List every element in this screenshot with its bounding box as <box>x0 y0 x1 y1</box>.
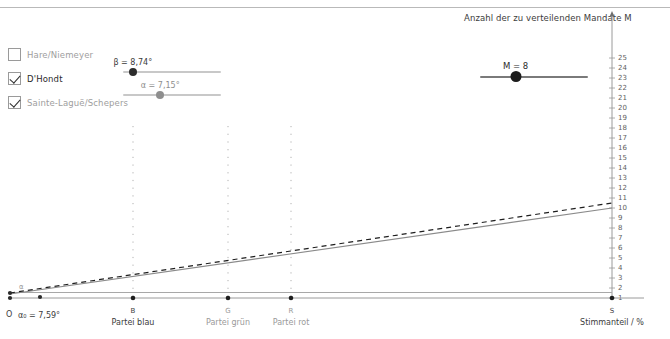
y-tick-label-24: 24 <box>618 64 627 72</box>
point-g[interactable] <box>226 296 231 301</box>
y-tick-label-23: 23 <box>618 74 627 82</box>
x-label-party-blue: Partei blau <box>112 318 155 327</box>
series-sainte-lague <box>10 208 612 294</box>
y-tick-label-2: 2 <box>618 284 622 292</box>
x-axis-labels: B Partei blau G Partei grün R Partei rot… <box>112 307 645 327</box>
y-tick-label-25: 25 <box>618 54 627 62</box>
x-label-short-r: R <box>289 307 294 315</box>
series-dhondt <box>10 203 612 293</box>
point-b[interactable] <box>131 296 136 301</box>
y-axis-arrow <box>610 11 615 17</box>
point-s[interactable] <box>610 296 615 301</box>
y-tick-label-17: 17 <box>618 134 627 142</box>
y-tick-label-7: 7 <box>618 234 622 242</box>
seat-allocation-plot: 1234567891011121314151617181920212223242… <box>0 0 670 339</box>
y-tick-label-15: 15 <box>618 154 627 162</box>
y-tick-label-8: 8 <box>618 224 622 232</box>
y-tick-label-5: 5 <box>618 254 622 262</box>
x-label-party-green: Partei grün <box>206 318 250 327</box>
y-tick-label-16: 16 <box>618 144 627 152</box>
y-tick-label-14: 14 <box>618 164 627 172</box>
x-axis-title: Stimmanteil / % <box>580 318 644 327</box>
point-origin-upper[interactable] <box>8 291 12 295</box>
y-tick-label-11: 11 <box>618 194 627 202</box>
y-tick-label-3: 3 <box>618 274 622 282</box>
x-label-party-red: Partei rot <box>273 318 310 327</box>
annotation-alpha-zero: α₀ = 7,59° <box>18 311 60 320</box>
y-tick-label-6: 6 <box>618 244 623 252</box>
x-label-short-g: G <box>225 307 230 315</box>
point-r[interactable] <box>289 296 294 301</box>
y-tick-label-21: 21 <box>618 94 627 102</box>
axis-origin-label: O <box>6 310 12 319</box>
y-tick-label-19: 19 <box>618 114 627 122</box>
x-label-short-b: B <box>131 307 136 315</box>
annotation-alpha-angle: α <box>19 283 24 291</box>
x-label-short-s: S <box>610 307 615 315</box>
point-origin[interactable] <box>8 296 12 300</box>
point-alpha0[interactable] <box>38 295 42 299</box>
y-tick-label-4: 4 <box>618 264 623 272</box>
y-tick-label-12: 12 <box>618 184 627 192</box>
y-tick-label-13: 13 <box>618 174 627 182</box>
y-tick-label-22: 22 <box>618 84 627 92</box>
y-tick-label-10: 10 <box>618 204 627 212</box>
y-tick-label-18: 18 <box>618 124 627 132</box>
y-tick-label-9: 9 <box>618 214 622 222</box>
y-tick-label-20: 20 <box>618 104 627 112</box>
